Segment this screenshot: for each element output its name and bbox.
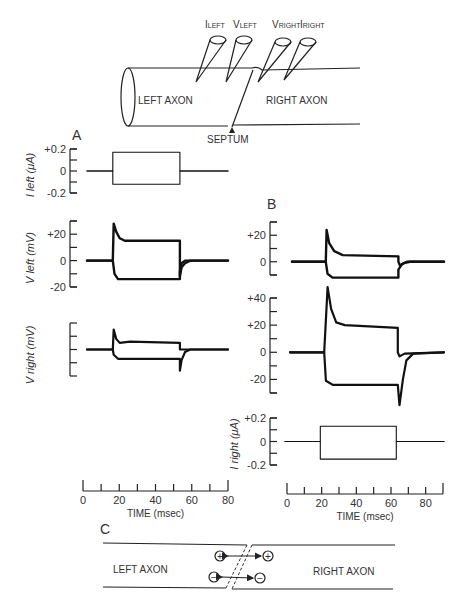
trace-b-v-right: +40+200-20 (247, 287, 444, 405)
time-tick-label: 40 (350, 497, 362, 509)
trace-hyperpolarizing (292, 262, 444, 278)
septum-arrow (229, 127, 235, 133)
c-minus-left: − (209, 572, 219, 583)
c-septum-2 (232, 545, 252, 589)
panel-c-label: C (100, 521, 110, 537)
trace-hyperpolarizing (290, 352, 444, 405)
y-tick-label: 0 (260, 346, 266, 358)
time-tick-label: 80 (222, 494, 234, 506)
time-tick-label: 40 (149, 494, 161, 506)
trace-depolarizing (290, 287, 444, 356)
y-tick-label: +0.2 (44, 143, 66, 155)
c-current-arrow-minus (222, 577, 253, 578)
time-tick-label: 0 (284, 497, 290, 509)
septum-label: SEPTUM (207, 134, 249, 145)
y-tick-label: -20 (250, 373, 266, 385)
y-tick-label: -0.2 (47, 187, 66, 199)
y-tick-label: 0 (60, 165, 66, 177)
time-tick-label: 20 (316, 497, 328, 509)
trace-a-v-left: +200-20V left (mV) (24, 221, 228, 293)
time-tick-label: 20 (113, 494, 125, 506)
y-axis-title: I right (μA) (228, 418, 240, 470)
y-tick-label: 0 (60, 255, 66, 267)
trace-a-v-right: V right (mV) (24, 323, 228, 384)
c-right-axon-label: RIGHT AXON (313, 566, 375, 577)
time-tick-label: 80 (420, 497, 432, 509)
axon-schematic: LEFT AXON RIGHT AXON SEPTUM ILEFT VLEFT … (121, 19, 360, 145)
trace-a-i-left: +0.20-0.2I left (μA) (24, 143, 228, 199)
right-axon-label: RIGHT AXON (266, 95, 328, 106)
trace-depolarizing (87, 224, 228, 277)
panel-b-label: B (267, 196, 276, 212)
c-plus-right: + (263, 551, 273, 562)
y-tick-label: +20 (247, 319, 266, 331)
time-axis-title: TIME (msec) (336, 511, 393, 522)
y-axis-title: V left (mV) (24, 232, 36, 284)
time-axis-b: 020406080TIME (msec) (284, 483, 443, 522)
svg-text:VRIGHT: VRIGHT (272, 19, 301, 30)
svg-text:−: − (257, 573, 263, 584)
c-plus-left: + (215, 551, 225, 562)
y-axis-title: V right (mV) (24, 325, 36, 384)
electrode-v-right: VRIGHT (258, 19, 301, 82)
time-tick-label: 0 (80, 494, 86, 506)
y-tick-label: +40 (247, 292, 266, 304)
trace-b-v-left: +200 (247, 222, 444, 278)
svg-text:IRIGHT: IRIGHT (300, 19, 325, 30)
y-axis-title: I left (μA) (24, 152, 36, 197)
trace-b-i-right: +0.20-0.2I right (μA) (228, 412, 444, 471)
y-tick-label: -20 (50, 281, 66, 293)
svg-text:VLEFT: VLEFT (233, 19, 258, 30)
axon-outline-top (128, 67, 360, 70)
figure: LEFT AXON RIGHT AXON SEPTUM ILEFT VLEFT … (0, 0, 467, 611)
time-axis-a: 020406080TIME (msec) (80, 480, 234, 519)
c-left-axon-label: LEFT AXON (113, 564, 168, 575)
axon-end-cap (121, 68, 135, 126)
axon-outline-bottom (128, 110, 360, 126)
y-tick-label: -0.2 (247, 459, 266, 471)
trace-hyperpolarizing (87, 261, 228, 280)
trace-depolarizing (87, 330, 228, 350)
trace-hyperpolarizing (87, 350, 228, 371)
left-axon-label: LEFT AXON (138, 95, 193, 106)
trace-hyperpolarizing (87, 171, 228, 184)
charts: +0.20-0.2I left (μA)+200-20V left (mV)V … (24, 143, 444, 522)
svg-text:−: − (211, 572, 217, 583)
svg-text:+: + (217, 551, 223, 562)
y-tick-label: +0.2 (244, 412, 266, 424)
c-minus-right: − (255, 573, 265, 584)
svg-text:+: + (265, 551, 271, 562)
svg-text:ILEFT: ILEFT (205, 19, 226, 30)
y-tick-label: 0 (260, 436, 266, 448)
trace-depolarizing (292, 230, 444, 266)
y-tick-label: +20 (247, 229, 266, 241)
y-tick-label: +20 (47, 228, 66, 240)
electrode-v-left: VLEFT (226, 19, 258, 82)
time-tick-label: 60 (186, 494, 198, 506)
time-tick-label: 60 (385, 497, 397, 509)
c-septum-1 (226, 545, 247, 588)
trace-depolarizing (87, 152, 228, 171)
septum-line (232, 70, 253, 127)
c-axon-top-left (103, 543, 247, 545)
y-tick-label: 0 (260, 256, 266, 268)
c-axon-bottom-left (103, 587, 226, 588)
electrode-i-left: ILEFT (196, 19, 226, 82)
trace-depolarizing (285, 426, 444, 441)
diagram-c: LEFT AXON RIGHT AXON + + − − (103, 543, 395, 589)
panel-a-label: A (72, 127, 82, 143)
time-axis-title: TIME (msec) (127, 508, 184, 519)
trace-hyperpolarizing (285, 442, 444, 460)
